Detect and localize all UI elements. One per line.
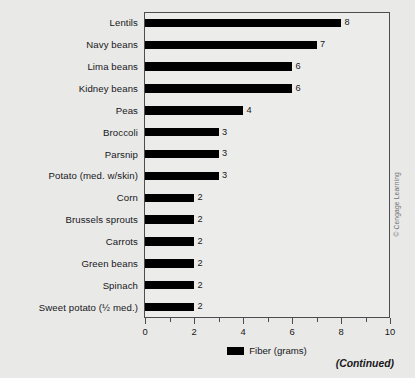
table-row: Parsnip3 <box>0 143 415 165</box>
table-row: Navy beans7 <box>0 34 415 56</box>
x-axis: 0246810 <box>144 318 390 344</box>
x-tick-major <box>145 318 146 324</box>
bar-value-label: 2 <box>198 281 203 290</box>
x-tick-major <box>341 318 342 324</box>
table-row: Lentils8 <box>0 12 415 34</box>
legend-label-fiber: Fiber (grams) <box>249 345 307 356</box>
bar-value-label: 2 <box>198 259 203 268</box>
category-label: Spinach <box>0 280 138 291</box>
bar-container: 2 <box>145 187 203 209</box>
table-row: Peas4 <box>0 99 415 121</box>
x-tick-label: 4 <box>240 326 245 337</box>
x-tick-label: 8 <box>338 326 343 337</box>
table-row: Green beans2 <box>0 252 415 274</box>
bar <box>145 84 292 93</box>
fiber-bar-chart: Lentils8Navy beans7Lima beans6Kidney bea… <box>0 0 415 378</box>
bar-container: 3 <box>145 165 227 187</box>
category-label: Broccoli <box>0 127 138 138</box>
bar <box>145 19 341 28</box>
bar <box>145 259 194 268</box>
bar-container: 8 <box>145 12 350 34</box>
bar <box>145 172 219 181</box>
x-tick-minor <box>317 318 318 322</box>
bar-rows: Lentils8Navy beans7Lima beans6Kidney bea… <box>0 12 415 318</box>
legend-swatch-fiber <box>227 347 244 355</box>
category-label: Brussels sprouts <box>0 214 138 225</box>
category-label: Parsnip <box>0 149 138 160</box>
bar-value-label: 2 <box>198 193 203 202</box>
bar-container: 4 <box>145 99 252 121</box>
x-tick-major <box>390 318 391 324</box>
category-label: Carrots <box>0 236 138 247</box>
copyright-credit: © Cengage Learning <box>393 172 400 237</box>
x-tick-minor <box>170 318 171 322</box>
category-label: Sweet potato (½ med.) <box>0 302 138 313</box>
table-row: Kidney beans6 <box>0 78 415 100</box>
category-label: Potato (med. w/skin) <box>0 170 138 181</box>
bar <box>145 194 194 203</box>
x-tick-major <box>292 318 293 324</box>
continued-note: (Continued) <box>336 358 394 369</box>
bar-container: 2 <box>145 231 203 253</box>
bar-value-label: 3 <box>222 128 227 137</box>
bar-value-label: 7 <box>320 40 325 49</box>
table-row: Corn2 <box>0 187 415 209</box>
bar <box>145 62 292 71</box>
bar <box>145 303 194 312</box>
x-tick-major <box>243 318 244 324</box>
bar-container: 7 <box>145 34 325 56</box>
bar <box>145 281 194 290</box>
bar <box>145 150 219 159</box>
bar <box>145 237 194 246</box>
category-label: Kidney beans <box>0 83 138 94</box>
bar-container: 6 <box>145 78 301 100</box>
bar-container: 6 <box>145 56 301 78</box>
category-label: Lima beans <box>0 61 138 72</box>
x-tick-label: 0 <box>142 326 147 337</box>
bar-value-label: 4 <box>247 106 252 115</box>
bar-value-label: 6 <box>296 62 301 71</box>
bar-container: 2 <box>145 274 203 296</box>
table-row: Potato (med. w/skin)3 <box>0 165 415 187</box>
x-tick-major <box>194 318 195 324</box>
bar-value-label: 6 <box>296 84 301 93</box>
x-tick-minor <box>268 318 269 322</box>
bar <box>145 128 219 137</box>
category-label: Lentils <box>0 17 138 28</box>
bar-value-label: 2 <box>198 215 203 224</box>
bar-value-label: 3 <box>222 171 227 180</box>
x-tick-label: 2 <box>191 326 196 337</box>
x-tick-label: 10 <box>385 326 395 337</box>
category-label: Peas <box>0 105 138 116</box>
bar <box>145 106 243 115</box>
bar-value-label: 2 <box>198 237 203 246</box>
table-row: Brussels sprouts2 <box>0 209 415 231</box>
bar <box>145 215 194 224</box>
bar-container: 3 <box>145 121 227 143</box>
x-tick-minor <box>219 318 220 322</box>
bar-container: 2 <box>145 296 203 318</box>
bar-container: 3 <box>145 143 227 165</box>
table-row: Sweet potato (½ med.)2 <box>0 296 415 318</box>
bar-value-label: 3 <box>222 149 227 158</box>
category-label: Navy beans <box>0 39 138 50</box>
bar <box>145 41 317 50</box>
bar-value-label: 2 <box>198 302 203 311</box>
bar-container: 2 <box>145 209 203 231</box>
chart-legend: Fiber (grams) <box>144 345 390 356</box>
category-label: Green beans <box>0 258 138 269</box>
table-row: Carrots2 <box>0 231 415 253</box>
table-row: Broccoli3 <box>0 121 415 143</box>
bar-value-label: 8 <box>345 18 350 27</box>
category-label: Corn <box>0 192 138 203</box>
table-row: Spinach2 <box>0 274 415 296</box>
x-tick-minor <box>366 318 367 322</box>
x-tick-label: 6 <box>289 326 294 337</box>
table-row: Lima beans6 <box>0 56 415 78</box>
bar-container: 2 <box>145 252 203 274</box>
